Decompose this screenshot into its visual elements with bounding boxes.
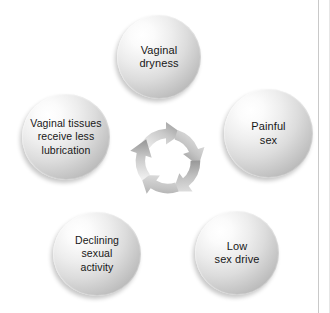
node-vaginal-dryness: Vaginal dryness (117, 15, 201, 99)
node-label: Vaginal dryness (133, 44, 184, 71)
cycle-arrows (124, 117, 212, 205)
cycle-arrows-svg (124, 117, 212, 205)
node-painful-sex: Painful sex (224, 89, 313, 178)
cycle-arrow-3 (164, 156, 212, 201)
cycle-diagram: Vaginal dryness Painful sex Low sex driv… (0, 0, 330, 313)
page-rule-right (318, 0, 319, 313)
node-vaginal-tissues-less-lubrication: Vaginal tissues receive less lubrication (22, 94, 110, 180)
node-label: Low sex drive (209, 240, 266, 267)
node-declining-sexual-activity: Declining sexual activity (53, 212, 141, 296)
node-label: Declining sexual activity (53, 234, 141, 275)
node-label: Vaginal tissues receive less lubrication (24, 117, 107, 158)
node-label: Painful sex (245, 120, 291, 147)
node-low-sex-drive: Low sex drive (195, 211, 279, 295)
